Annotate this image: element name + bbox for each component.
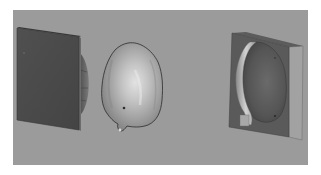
bone-implant bbox=[102, 43, 163, 132]
block-rim-foot bbox=[240, 115, 249, 126]
left-mold-plate bbox=[17, 27, 89, 131]
plate-front-face bbox=[17, 28, 79, 130]
render-viewport bbox=[13, 10, 308, 165]
right-mold-block bbox=[229, 32, 303, 140]
bone-hole bbox=[123, 107, 126, 110]
render-canvas bbox=[13, 10, 308, 165]
figure-frame bbox=[0, 0, 321, 175]
bone-body bbox=[102, 43, 163, 131]
block-side-face bbox=[289, 46, 303, 140]
